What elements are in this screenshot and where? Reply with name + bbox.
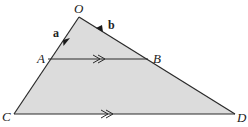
triangle-diagram: O A B C D a b — [0, 0, 248, 127]
label-point-o: O — [74, 1, 84, 16]
label-vector-b: b — [108, 18, 115, 32]
label-vector-a: a — [53, 26, 59, 40]
label-point-d: D — [236, 110, 247, 125]
label-point-b: B — [153, 51, 161, 66]
label-point-a: A — [36, 51, 45, 66]
label-point-c: C — [2, 109, 11, 124]
